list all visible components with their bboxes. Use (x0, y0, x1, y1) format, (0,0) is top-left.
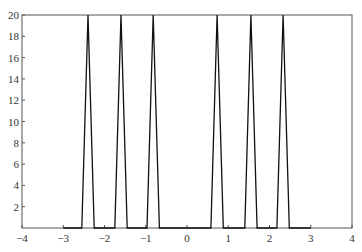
series-line (63, 15, 310, 228)
axes (22, 15, 352, 228)
ticks: −4−3−2−1012342468101214161820 (8, 9, 355, 244)
y-tick-label: 20 (8, 9, 20, 21)
x-tick-label: −1 (140, 232, 152, 244)
y-tick-label: 18 (8, 30, 20, 42)
data-series (63, 15, 310, 228)
plot-frame (22, 15, 352, 228)
x-tick-label: 4 (349, 232, 355, 244)
x-tick-label: −4 (16, 232, 28, 244)
chart: −4−3−2−1012342468101214161820 (0, 0, 362, 252)
y-tick-label: 4 (14, 179, 20, 191)
x-tick-label: 0 (184, 232, 190, 244)
y-tick-label: 12 (8, 94, 19, 106)
y-tick-label: 2 (14, 201, 20, 213)
x-tick-label: 1 (226, 232, 232, 244)
x-tick-label: −3 (57, 232, 69, 244)
x-tick-label: 2 (267, 232, 273, 244)
y-tick-label: 10 (8, 116, 20, 128)
y-tick-label: 8 (14, 137, 20, 149)
x-tick-label: −2 (99, 232, 111, 244)
y-tick-label: 14 (8, 73, 20, 85)
y-tick-label: 16 (8, 52, 20, 64)
y-tick-label: 6 (14, 158, 20, 170)
x-tick-label: 3 (308, 232, 314, 244)
